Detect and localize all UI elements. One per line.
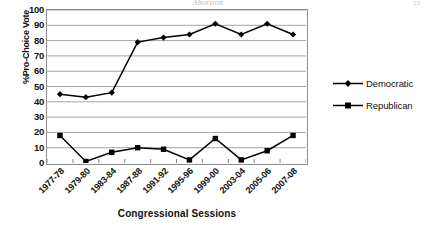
legend-label: Republican — [366, 100, 413, 111]
legend-square-marker-icon — [333, 100, 363, 111]
legend-label: Democratic — [366, 78, 413, 89]
x-axis-tick-labels: 1977-781979-801983-841987-881991-921995-… — [0, 0, 424, 230]
x-axis-title: Congressional Sessions — [46, 208, 308, 219]
legend-diamond-marker-icon — [333, 78, 363, 89]
legend-item: Democratic — [333, 78, 413, 89]
chart-legend: DemocraticRepublican — [333, 78, 413, 111]
chart-page: Abortion 23 %Pro-Choice Vote 01020304050… — [0, 0, 424, 230]
legend-item: Republican — [333, 100, 413, 111]
